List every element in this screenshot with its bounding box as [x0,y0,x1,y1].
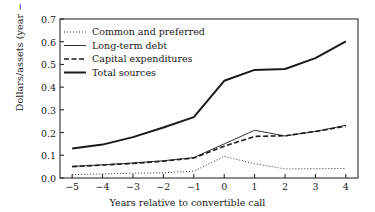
legend-label: Total sources [92,67,156,78]
x-tick-marks [72,174,346,178]
legend-label: Long-term debt [92,40,167,51]
series-line [72,126,346,166]
plot-area: Common and preferredLong-term debtCapita… [0,0,375,212]
chart-figure: Dollars/assets (year − 1) Years relative… [0,0,375,212]
y-tick-marks [60,19,64,178]
chart-legend: Common and preferredLong-term debtCapita… [64,26,205,78]
legend-label: Capital expenditures [92,53,193,64]
series-line [72,125,346,166]
legend-label: Common and preferred [92,26,205,37]
series-line [72,156,346,174]
